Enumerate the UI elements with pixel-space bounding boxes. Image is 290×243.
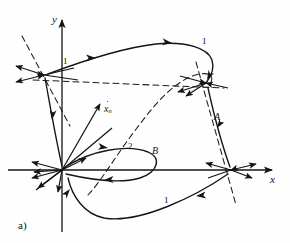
arrow-ur-3 bbox=[186, 83, 206, 96]
arrow-bottom-left-down bbox=[62, 189, 70, 199]
arrow-upper-left bbox=[86, 54, 96, 61]
label-separatrix-b: B bbox=[152, 146, 158, 156]
trajectory-left-branch bbox=[45, 78, 62, 166]
arrow-origin-wl bbox=[32, 162, 62, 170]
vector-subscript-symbol: n bbox=[108, 107, 111, 114]
saddle-upper-left-arrows bbox=[16, 66, 78, 82]
label-trajectory-bottom: 1 bbox=[164, 196, 169, 205]
axis-group bbox=[8, 20, 272, 232]
arrow-r-1 bbox=[206, 163, 231, 170]
arrow-r-3 bbox=[231, 164, 256, 170]
arrow-ur-2 bbox=[178, 83, 206, 92]
arrow-upper-mid bbox=[162, 38, 172, 45]
arrow-r-4 bbox=[231, 170, 252, 178]
arrow-upper-right-down bbox=[207, 70, 214, 80]
arrow-ur-1 bbox=[180, 76, 206, 83]
label-vector-x-eta: xn bbox=[104, 104, 112, 115]
arrow-loop-bottom bbox=[104, 176, 114, 183]
arrow-loop-top bbox=[98, 143, 108, 150]
figure-caption: a) bbox=[18, 220, 27, 231]
ray-origin-ur bbox=[62, 128, 112, 170]
label-separatrix-a: A bbox=[214, 112, 220, 122]
x-axis-label: x bbox=[270, 174, 275, 185]
phase-portrait-figure: y x 1 1 1 2 A B xn a) bbox=[0, 0, 290, 243]
label-trajectory-left: 1 bbox=[63, 57, 68, 66]
arrow-ul-4 bbox=[44, 75, 78, 80]
trajectory-upper-arc bbox=[48, 43, 213, 83]
homoclinic-loop bbox=[64, 149, 156, 181]
trajectory-2-group bbox=[64, 143, 156, 183]
y-axis-label: y bbox=[52, 14, 57, 25]
vector-base-symbol: x bbox=[104, 103, 108, 114]
arrow-ul-3 bbox=[44, 68, 74, 75]
phase-portrait-canvas bbox=[0, 0, 290, 243]
trajectory-right-branch bbox=[208, 88, 230, 167]
arrow-ul-1 bbox=[16, 66, 44, 75]
arrow-ul-2 bbox=[16, 75, 44, 82]
trajectory-1-group bbox=[45, 38, 230, 219]
arrow-left-branch bbox=[50, 110, 57, 120]
dashed-line-upper-right bbox=[196, 62, 236, 205]
label-loop-inner: 2 bbox=[128, 142, 133, 151]
label-trajectory-top: 1 bbox=[202, 37, 207, 46]
